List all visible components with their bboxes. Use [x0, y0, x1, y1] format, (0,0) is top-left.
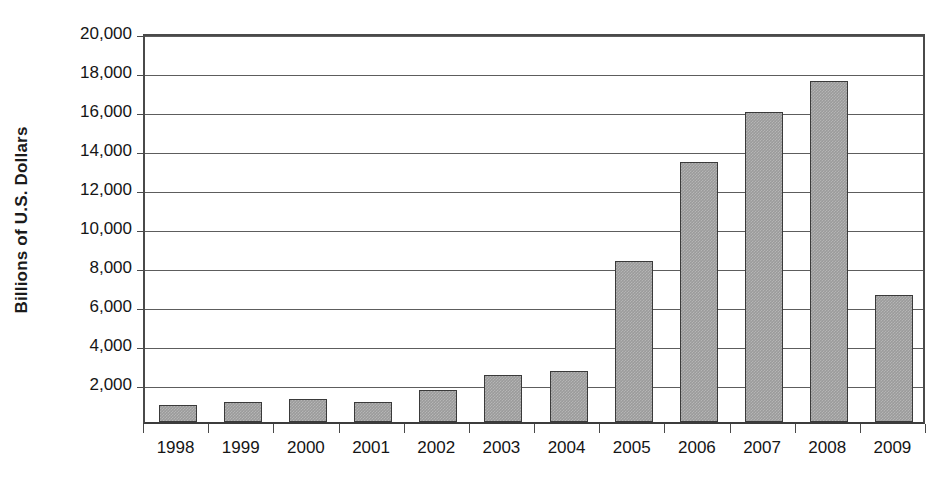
y-tick-mark	[137, 348, 145, 349]
bar-chart: Billions of U.S. Dollars 2,0004,0006,000…	[0, 0, 948, 488]
x-tick-label-1999: 1999	[222, 438, 260, 458]
x-tick-label-2002: 2002	[417, 438, 455, 458]
y-axis-title: Billions of U.S. Dollars	[0, 0, 44, 440]
x-tick-label-2007: 2007	[743, 438, 781, 458]
y-tick-mark	[137, 309, 145, 310]
y-tick-mark	[137, 387, 145, 388]
x-axis: 1998199920002001200220032004200520062007…	[143, 424, 925, 488]
x-tick-mark	[860, 424, 861, 433]
y-tick-label: 2,000	[89, 375, 132, 395]
y-tick-label: 6,000	[89, 297, 132, 317]
bar-2004	[550, 371, 588, 422]
y-tick-label: 18,000	[80, 63, 132, 83]
x-tick-label-2003: 2003	[482, 438, 520, 458]
bars-layer	[145, 36, 923, 422]
bar-2006	[680, 162, 718, 422]
x-tick-mark	[730, 424, 731, 433]
y-tick-label: 10,000	[80, 219, 132, 239]
y-tick-mark	[137, 36, 145, 37]
bar-2002	[419, 390, 457, 422]
bar-1999	[224, 402, 262, 422]
bar-2008	[810, 81, 848, 422]
bar-2000	[289, 399, 327, 422]
y-axis-title-text: Billions of U.S. Dollars	[12, 126, 32, 313]
x-tick-label-2004: 2004	[548, 438, 586, 458]
x-tick-mark	[208, 424, 209, 433]
y-tick-mark	[137, 153, 145, 154]
y-tick-mark	[137, 75, 145, 76]
x-tick-label-2005: 2005	[613, 438, 651, 458]
x-tick-mark	[925, 424, 926, 433]
y-tick-label: 14,000	[80, 141, 132, 161]
bar-1998	[159, 405, 197, 422]
y-tick-label: 4,000	[89, 336, 132, 356]
x-tick-mark	[273, 424, 274, 433]
x-tick-mark	[143, 424, 144, 433]
x-tick-mark	[599, 424, 600, 433]
x-tick-label-2008: 2008	[808, 438, 846, 458]
x-tick-mark	[404, 424, 405, 433]
y-tick-label: 16,000	[80, 102, 132, 122]
bar-2009	[875, 295, 913, 422]
x-tick-mark	[534, 424, 535, 433]
x-tick-mark	[664, 424, 665, 433]
y-tick-mark	[137, 231, 145, 232]
y-tick-mark	[137, 192, 145, 193]
plot-area	[143, 34, 925, 424]
y-axis-tick-labels: 2,0004,0006,0008,00010,00012,00014,00016…	[44, 0, 140, 488]
bar-2001	[354, 402, 392, 422]
x-tick-label-2009: 2009	[873, 438, 911, 458]
bar-2003	[484, 375, 522, 422]
y-tick-mark	[137, 270, 145, 271]
x-tick-mark	[469, 424, 470, 433]
y-tick-label: 20,000	[80, 24, 132, 44]
y-tick-mark	[137, 114, 145, 115]
x-tick-label-1998: 1998	[157, 438, 195, 458]
x-tick-label-2001: 2001	[352, 438, 390, 458]
y-tick-label: 12,000	[80, 180, 132, 200]
bar-2005	[615, 261, 653, 422]
y-tick-label: 8,000	[89, 258, 132, 278]
x-tick-label-2006: 2006	[678, 438, 716, 458]
x-tick-label-2000: 2000	[287, 438, 325, 458]
bar-2007	[745, 112, 783, 422]
x-tick-mark	[795, 424, 796, 433]
x-tick-mark	[339, 424, 340, 433]
